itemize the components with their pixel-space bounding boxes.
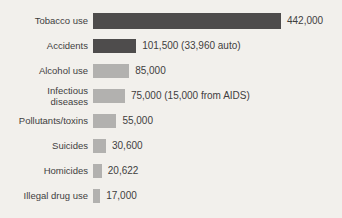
bar xyxy=(93,39,136,53)
category-label: Suicides xyxy=(0,140,88,151)
category-label: Pollutants/toxins xyxy=(0,115,88,126)
category-label: Illegal drug use xyxy=(0,190,88,201)
bar-row: Homicides 20,622 xyxy=(0,158,342,183)
category-label: Tobacco use xyxy=(0,15,88,26)
value-label: 442,000 xyxy=(287,15,323,26)
bar xyxy=(93,164,102,178)
bar-row: Tobacco use 442,000 xyxy=(0,8,342,33)
bar xyxy=(93,89,125,103)
value-label: 17,000 xyxy=(106,190,137,201)
bar-row: Illegal drug use 17,000 xyxy=(0,183,342,208)
value-label: 101,500 (33,960 auto) xyxy=(142,40,240,51)
bar-row: Alcohol use 85,000 xyxy=(0,58,342,83)
value-label: 30,600 xyxy=(112,140,143,151)
bar-row: Accidents 101,500 (33,960 auto) xyxy=(0,33,342,58)
bar xyxy=(93,139,106,153)
value-label: 85,000 xyxy=(135,65,166,76)
category-label: Alcohol use xyxy=(0,65,88,76)
category-label: Homicides xyxy=(0,165,88,176)
bar-row: Suicides 30,600 xyxy=(0,133,342,158)
bar-row: Pollutants/toxins 55,000 xyxy=(0,108,342,133)
category-label: Accidents xyxy=(0,40,88,51)
value-label: 20,622 xyxy=(108,165,139,176)
bar-row: Infectious diseases 75,000 (15,000 from … xyxy=(0,83,342,108)
bar xyxy=(93,189,100,203)
bar-chart: Tobacco use 442,000 Accidents 101,500 (3… xyxy=(0,0,342,218)
category-label: Infectious diseases xyxy=(0,85,88,107)
value-label: 75,000 (15,000 from AIDS) xyxy=(131,90,250,101)
bar xyxy=(93,64,129,78)
bar xyxy=(93,114,116,128)
value-label: 55,000 xyxy=(122,115,153,126)
bar xyxy=(93,13,281,29)
